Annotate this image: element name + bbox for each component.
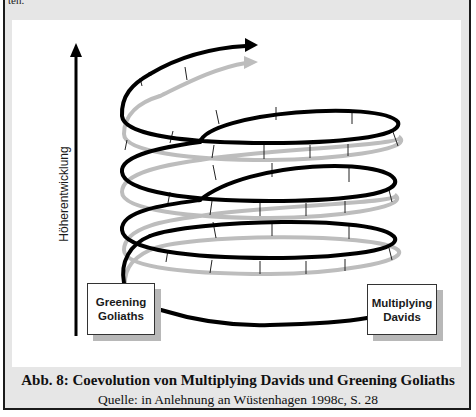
greening-goliaths-box: Greening Goliaths: [87, 283, 155, 335]
base-curve: [161, 310, 367, 325]
figure-caption: Abb. 8: Coevolution von Multiplying Davi…: [5, 372, 471, 389]
tick-marks: [125, 67, 398, 274]
coevolution-spiral-diagram: [0, 0, 476, 417]
axis-label-hoeherentwicklung: Höherentwicklung: [57, 146, 71, 241]
figure-source: Quelle: in Anlehnung an Wüstenhagen 1998…: [5, 392, 471, 408]
multiplying-davids-box: Multiplying Davids: [367, 284, 437, 335]
vertical-axis-arrow-icon: [70, 43, 82, 336]
